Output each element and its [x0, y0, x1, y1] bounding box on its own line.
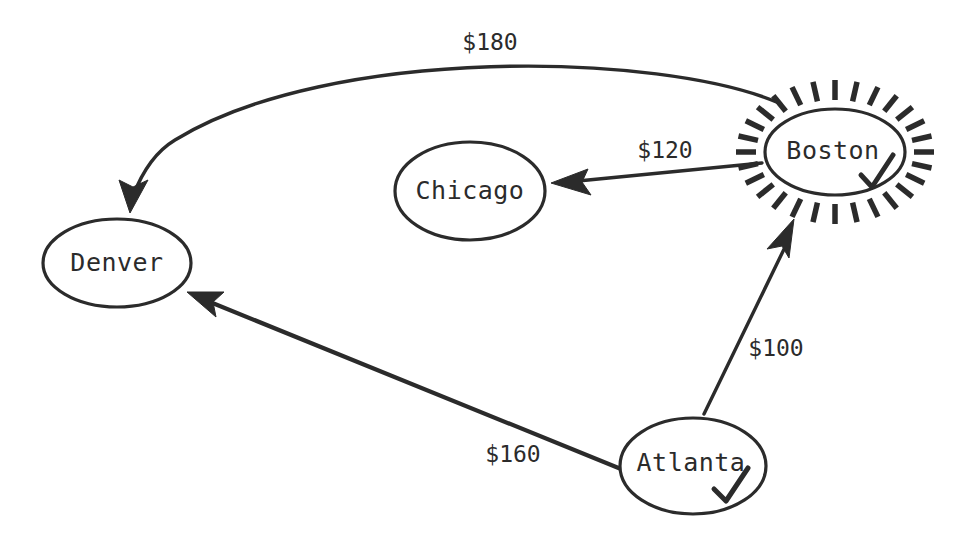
edge-boston-chicago[interactable]: $120: [551, 137, 762, 196]
node-chicago-label: Chicago: [416, 176, 525, 205]
edge-atlanta-boston-arrowhead: [767, 219, 794, 258]
sunburst-ray: [773, 96, 785, 112]
sunburst-ray: [813, 203, 817, 222]
sunburst-ray: [897, 107, 913, 119]
edge-atlanta-denver[interactable]: $160: [187, 292, 621, 469]
edge-atlanta-boston[interactable]: $100: [704, 219, 804, 414]
sunburst-ray: [912, 164, 932, 168]
edge-atlanta-boston-label: $100: [748, 335, 803, 361]
sunburst-ray: [758, 184, 774, 196]
sunburst-ray: [813, 82, 817, 101]
sunburst-ray: [912, 136, 932, 140]
node-chicago[interactable]: Chicago: [395, 142, 545, 240]
edge-layer: $180 $120 $100 $160: [119, 29, 804, 470]
sunburst-ray: [758, 107, 774, 119]
node-atlanta[interactable]: Atlanta: [620, 418, 766, 514]
edge-atlanta-denver-label: $160: [485, 441, 540, 467]
graph-canvas: $180 $120 $100 $160: [0, 0, 966, 544]
edge-boston-chicago-path: [578, 163, 762, 181]
node-boston[interactable]: Boston: [765, 109, 905, 195]
edge-atlanta-boston-path: [704, 243, 787, 414]
sunburst-ray: [773, 193, 785, 209]
sunburst-ray: [792, 87, 801, 105]
sunburst-ray: [853, 82, 857, 101]
edge-boston-chicago-label: $120: [637, 137, 692, 163]
graph-diagram: $180 $120 $100 $160: [0, 0, 966, 544]
edge-boston-denver-label: $180: [462, 29, 517, 55]
sunburst-ray: [869, 199, 878, 217]
sunburst-ray: [884, 193, 896, 209]
node-atlanta-label: Atlanta: [637, 448, 746, 477]
edge-atlanta-denver-path: [210, 302, 621, 469]
node-layer: Denver Chicago Boston Atlanta: [43, 109, 905, 514]
sunburst-ray: [746, 175, 764, 184]
sunburst-ray: [792, 199, 801, 217]
sunburst-ray: [906, 121, 924, 130]
sunburst-ray: [853, 203, 857, 222]
edge-boston-denver-arrowhead: [119, 180, 148, 213]
node-denver[interactable]: Denver: [43, 219, 191, 307]
sunburst-ray: [897, 184, 913, 196]
sunburst-ray: [869, 87, 878, 105]
sunburst-ray: [884, 96, 896, 112]
sunburst-ray: [738, 136, 758, 140]
sunburst-ray: [746, 121, 764, 130]
sunburst-ray: [906, 175, 924, 184]
node-boston-label: Boston: [786, 136, 879, 165]
node-denver-label: Denver: [70, 248, 163, 277]
